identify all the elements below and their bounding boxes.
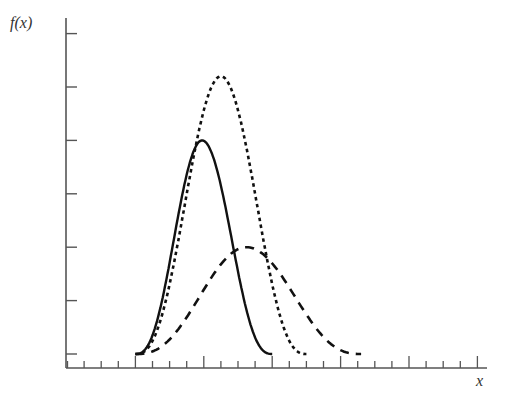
axes [66,18,487,368]
curves [135,76,361,354]
x-axis-label: x [476,372,483,390]
y-axis-label: f(x) [10,14,32,32]
dotted-curve [135,76,306,354]
density-plot [0,0,514,401]
